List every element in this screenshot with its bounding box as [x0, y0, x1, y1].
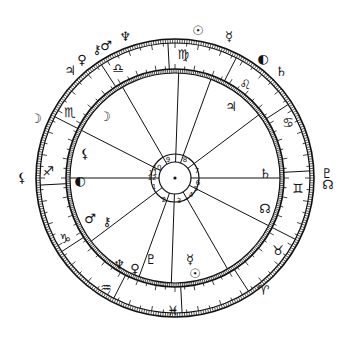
degree-tick	[48, 121, 52, 123]
transit-chiron-icon: ⚷	[92, 42, 102, 57]
degree-tick	[291, 248, 294, 250]
house-number-1: 1	[152, 183, 156, 191]
house-cusp-line	[176, 73, 179, 154]
degree-tick	[47, 231, 51, 233]
degree-tick	[216, 78, 218, 82]
five-degree-tick	[80, 271, 82, 273]
degree-tick	[253, 248, 256, 251]
five-degree-tick	[194, 66, 195, 71]
five-degree-tick	[245, 261, 248, 265]
degree-tick	[249, 61, 251, 64]
degree-tick	[288, 102, 291, 104]
degree-tick	[87, 114, 90, 116]
degree-tick	[232, 300, 234, 304]
degree-tick	[265, 122, 268, 124]
degree-tick	[269, 224, 273, 226]
five-degree-tick	[88, 105, 92, 108]
degree-tick	[243, 295, 245, 298]
degree-tick	[50, 237, 54, 239]
five-degree-tick	[64, 254, 66, 256]
degree-tick	[84, 73, 87, 76]
degree-tick	[253, 105, 256, 108]
degree-tick	[219, 273, 221, 277]
degree-tick	[274, 83, 277, 86]
degree-tick	[61, 98, 64, 100]
degree-tick	[55, 246, 58, 248]
degree-tick	[75, 135, 79, 137]
five-degree-tick	[231, 56, 232, 59]
five-degree-tick	[48, 132, 53, 134]
degree-tick	[114, 299, 116, 303]
degree-tick	[277, 267, 280, 270]
degree-tick	[58, 102, 61, 104]
degree-tick	[84, 119, 87, 121]
degree-tick	[97, 102, 100, 105]
degree-tick	[257, 109, 260, 112]
five-degree-tick	[282, 158, 287, 159]
degree-tick	[298, 233, 302, 235]
hub-divider	[183, 192, 187, 199]
degree-tick	[86, 72, 89, 75]
five-degree-tick	[258, 105, 262, 108]
five-degree-tick	[68, 139, 73, 141]
degree-tick	[252, 104, 255, 107]
degree-tick	[114, 88, 116, 91]
degree-tick	[80, 277, 83, 280]
degree-tick	[228, 302, 230, 306]
degree-tick	[240, 261, 242, 264]
degree-tick	[109, 91, 111, 94]
degree-tick	[95, 104, 98, 107]
degree-tick	[261, 238, 264, 240]
hub-divider	[156, 188, 162, 193]
degree-tick	[78, 129, 82, 131]
degree-tick	[249, 291, 251, 294]
degree-tick	[97, 63, 99, 66]
degree-tick	[299, 231, 303, 233]
degree-tick	[83, 234, 86, 236]
degree-tick	[92, 108, 95, 111]
degree-tick	[249, 252, 252, 255]
degree-tick	[295, 239, 299, 241]
five-degree-tick	[118, 79, 121, 83]
degree-tick	[48, 233, 52, 235]
five-degree-tick	[64, 101, 66, 103]
degree-tick	[126, 81, 128, 85]
five-degree-tick	[231, 298, 232, 301]
degree-tick	[251, 102, 254, 105]
zodiac-capricorn-icon: ♑	[59, 231, 71, 246]
degree-tick	[231, 267, 233, 270]
degree-tick	[83, 120, 86, 122]
degree-tick	[288, 252, 291, 254]
transit-moon-icon: ☽	[30, 111, 42, 126]
sign-boundary-line	[40, 184, 66, 185]
degree-tick	[296, 117, 300, 119]
degree-tick	[244, 257, 247, 260]
five-degree-tick	[98, 286, 100, 288]
five-degree-tick	[198, 306, 199, 311]
degree-tick	[231, 86, 233, 89]
degree-tick	[89, 243, 92, 245]
degree-tick	[109, 262, 111, 265]
degree-tick	[224, 271, 226, 275]
degree-tick	[94, 105, 97, 108]
degree-tick	[275, 85, 278, 88]
degree-tick	[98, 101, 101, 104]
five-degree-tick	[88, 248, 92, 251]
five-degree-tick	[230, 272, 233, 276]
degree-tick	[287, 253, 290, 255]
five-degree-tick	[297, 222, 302, 224]
five-degree-tick	[275, 262, 279, 265]
degree-tick	[77, 130, 81, 132]
degree-tick	[99, 254, 102, 257]
degree-tick	[251, 251, 254, 254]
degree-tick	[108, 92, 110, 95]
degree-tick	[97, 290, 99, 293]
degree-tick	[258, 243, 261, 245]
degree-tick	[53, 243, 56, 245]
degree-tick	[114, 53, 116, 57]
five-degree-tick	[136, 280, 138, 285]
degree-tick	[84, 235, 87, 237]
five-degree-tick	[240, 61, 243, 65]
degree-tick	[237, 263, 239, 266]
degree-tick	[78, 78, 81, 81]
